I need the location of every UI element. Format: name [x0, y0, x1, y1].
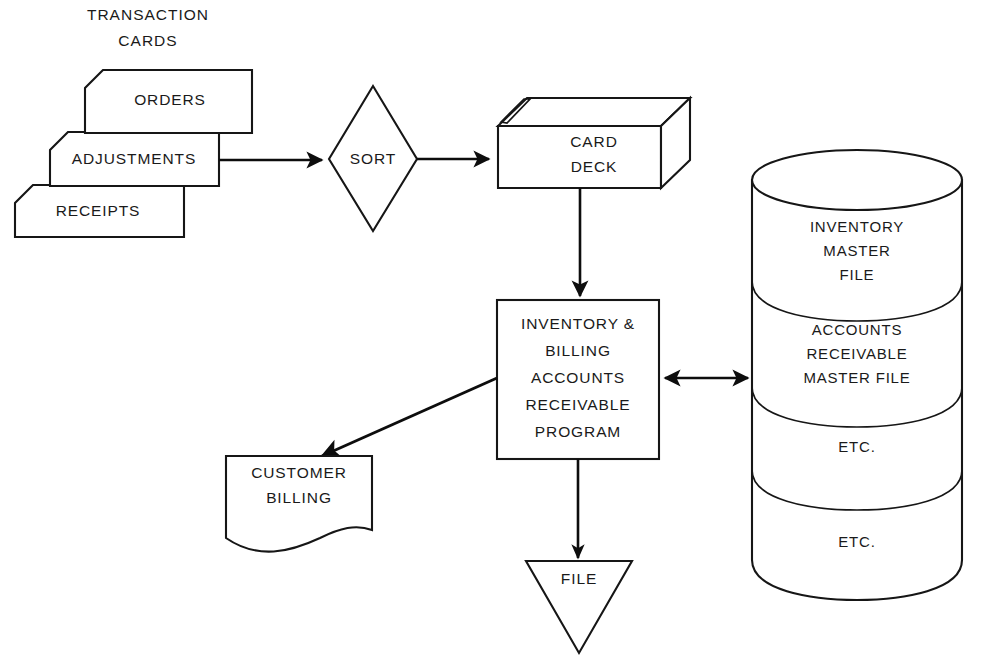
disk-segment-accounts-receivable-master: ACCOUNTS RECEIVABLE MASTER FILE [803, 321, 910, 386]
flowchart-diagram: TRANSACTION CARDS RECEIPTS ADJUSTMENTS O… [0, 0, 982, 666]
flowchart-canvas: TRANSACTION CARDS RECEIPTS ADJUSTMENTS O… [0, 0, 982, 666]
card-receipts[interactable]: RECEIPTS [15, 185, 184, 237]
program-line-4: RECEIVABLE [525, 396, 630, 413]
customer-billing-document[interactable]: CUSTOMER BILLING [226, 456, 372, 552]
disk-seg1-line-1: INVENTORY [810, 218, 904, 235]
sort-label: SORT [350, 150, 396, 167]
transaction-cards-header: TRANSACTION CARDS [87, 6, 209, 49]
program-line-1: INVENTORY & [521, 315, 635, 332]
card-deck[interactable]: CARD DECK [498, 98, 690, 188]
document-line-2: BILLING [266, 489, 332, 506]
connector-program-to-document [322, 378, 497, 456]
card-deck-line-2: DECK [571, 158, 618, 175]
program-line-5: PROGRAM [535, 423, 621, 440]
program-line-3: ACCOUNTS [531, 369, 625, 386]
file-label: FILE [561, 570, 597, 587]
card-deck-line-1: CARD [570, 133, 618, 150]
disk-seg3-line-1: ETC. [838, 438, 875, 455]
program-process[interactable]: INVENTORY & BILLING ACCOUNTS RECEIVABLE … [497, 300, 659, 459]
disk-seg1-line-2: MASTER [823, 242, 890, 259]
header-line-2: CARDS [118, 32, 177, 49]
header-line-1: TRANSACTION [87, 6, 209, 23]
disk-seg2-line-2: RECEIVABLE [806, 345, 907, 362]
card-adjustments[interactable]: ADJUSTMENTS [50, 132, 219, 186]
disk-segment-etc-1: ETC. [838, 438, 875, 455]
card-adjustments-label: ADJUSTMENTS [72, 150, 196, 167]
disk-seg2-line-3: MASTER FILE [803, 369, 910, 386]
file-storage[interactable]: FILE [526, 561, 632, 653]
disk-stack[interactable]: INVENTORY MASTER FILE ACCOUNTS RECEIVABL… [752, 150, 962, 600]
disk-seg2-line-1: ACCOUNTS [812, 321, 903, 338]
document-line-1: CUSTOMER [251, 464, 347, 481]
card-orders-label: ORDERS [134, 91, 206, 108]
card-receipts-label: RECEIPTS [56, 202, 141, 219]
disk-seg1-line-3: FILE [840, 266, 875, 283]
sort-process[interactable]: SORT [329, 86, 417, 231]
disk-seg4-line-1: ETC. [838, 533, 875, 550]
program-line-2: BILLING [545, 342, 611, 359]
disk-top-ellipse [752, 150, 962, 210]
disk-segment-etc-2: ETC. [838, 533, 875, 550]
card-orders[interactable]: ORDERS [85, 70, 252, 133]
